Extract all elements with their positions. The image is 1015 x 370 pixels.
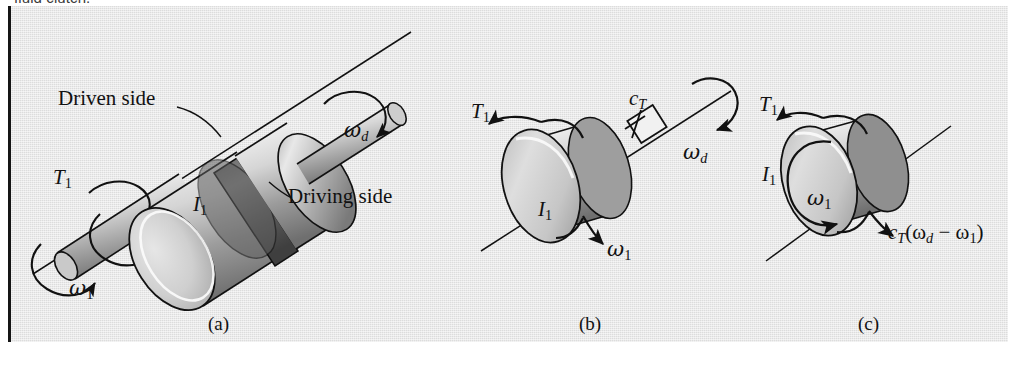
label-driving-side: Driving side bbox=[288, 186, 392, 207]
label-omega-driving-a-symbol: ω bbox=[344, 118, 361, 142]
label-omega-driven-a-subscript: 1 bbox=[86, 286, 93, 302]
label-omega-disk-b: ω1 bbox=[607, 239, 631, 262]
figure-page: fluid clutch. bbox=[0, 0, 1015, 370]
label-inertia-a-symbol: I bbox=[193, 192, 200, 216]
label-inertia-b: I1 bbox=[538, 199, 552, 222]
label-torque-c: T1 bbox=[759, 94, 778, 117]
caption-subfigure-b: (b) bbox=[579, 314, 601, 333]
label-torque-a: T1 bbox=[53, 167, 72, 190]
label-omega-shaft-b-symbol: ω bbox=[683, 140, 700, 164]
label-torque-b: T1 bbox=[471, 101, 490, 124]
omega-shaft-arrow-b bbox=[692, 78, 738, 130]
torque-arrow-b bbox=[489, 117, 541, 124]
label-omega-shaft-b-subscript: d bbox=[700, 150, 707, 166]
label-torque-c-symbol: T bbox=[759, 92, 771, 116]
label-omega-disk-b-symbol: ω bbox=[607, 237, 624, 261]
label-omega-driven-a: ω1 bbox=[69, 278, 93, 301]
label-omega-driving-a: ωd bbox=[344, 120, 368, 143]
damping-torque-c-close: ) bbox=[977, 220, 984, 244]
label-torque-c-subscript: 1 bbox=[771, 102, 778, 118]
label-damping-b-symbol: c bbox=[629, 86, 638, 110]
label-omega-disk-c-symbol: ω bbox=[807, 186, 824, 210]
label-inertia-a-subscript: 1 bbox=[200, 202, 207, 218]
label-inertia-c: I1 bbox=[762, 164, 776, 187]
label-inertia-c-symbol: I bbox=[762, 162, 769, 186]
damping-torque-c-symbol: c bbox=[888, 220, 897, 244]
figure-panel: Driven side Driving side T1 I1 ω1 ωd T1 … bbox=[8, 6, 1008, 342]
label-inertia-b-subscript: 1 bbox=[545, 207, 552, 223]
label-omega-driving-a-subscript: d bbox=[361, 128, 368, 144]
label-damping-b: cT bbox=[629, 88, 646, 111]
label-inertia-c-subscript: 1 bbox=[769, 172, 776, 188]
leader-driven-side-a bbox=[177, 107, 221, 137]
label-omega-disk-b-subscript: 1 bbox=[624, 247, 631, 263]
label-omega-disk-c-subscript: 1 bbox=[824, 196, 831, 212]
label-damping-torque-c: cT(ωd − ω1) bbox=[888, 222, 984, 245]
label-omega-shaft-b: ωd bbox=[683, 142, 707, 165]
caption-subfigure-c: (c) bbox=[858, 314, 879, 333]
label-torque-a-symbol: T bbox=[53, 165, 65, 189]
label-torque-a-subscript: 1 bbox=[65, 175, 72, 191]
torque-arrow-c bbox=[777, 113, 823, 120]
label-inertia-a: I1 bbox=[193, 194, 207, 217]
label-inertia-b-symbol: I bbox=[538, 197, 545, 221]
label-omega-driven-a-symbol: ω bbox=[69, 276, 86, 300]
label-torque-b-symbol: T bbox=[471, 99, 483, 123]
damping-torque-c-omega-1-sub: 1 bbox=[969, 230, 976, 246]
label-omega-disk-c: ω1 bbox=[807, 188, 831, 211]
caption-subfigure-a: (a) bbox=[208, 314, 229, 333]
label-torque-b-subscript: 1 bbox=[483, 109, 490, 125]
damping-torque-c-open: (ω bbox=[905, 220, 926, 244]
damping-torque-c-minus: − ω bbox=[933, 220, 969, 244]
figure-artwork bbox=[11, 6, 1011, 342]
label-damping-b-subscript: T bbox=[638, 96, 646, 112]
label-driven-side: Driven side bbox=[58, 88, 155, 109]
